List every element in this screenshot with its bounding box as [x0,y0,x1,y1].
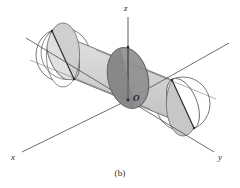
left-cap-bottom-dot [73,78,75,80]
figure-container: z x y O (b) [0,0,240,188]
y-axis-label: y [217,152,222,162]
right-cap-top-dot [171,79,173,81]
origin-dot [127,99,130,102]
x-axis-label: x [10,152,15,162]
left-cap-top-dot [51,30,53,32]
disk-top-dot [127,46,130,49]
z-axis-label: z [123,3,128,13]
origin-label: O [133,93,140,103]
x-axis [22,100,128,152]
figure-caption: (b) [0,168,240,178]
right-cap-bottom-dot [193,127,195,129]
coordinate-system-cylinder-diagram: z x y O [0,0,240,188]
